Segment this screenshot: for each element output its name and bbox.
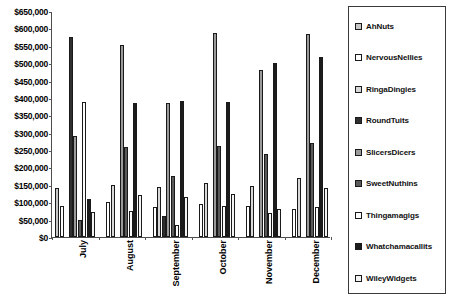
legend-item[interactable]: SweetNuthins	[355, 179, 418, 189]
bar	[87, 199, 91, 237]
legend-item[interactable]: NervousNellies	[355, 53, 422, 63]
bar-cluster	[192, 12, 239, 237]
bar-cluster	[238, 12, 285, 237]
legend-item-label: Whatchamacallits	[366, 242, 432, 251]
bar	[222, 206, 226, 237]
y-axis-tick-label: $450,000	[14, 78, 48, 86]
legend-swatch-icon	[355, 117, 362, 124]
legend-item[interactable]: SlicersDicers	[355, 147, 415, 157]
bar	[78, 220, 82, 237]
y-axis-tick-label: $150,000	[14, 182, 48, 190]
y-axis-tick-label: $100,000	[14, 199, 48, 207]
bar	[204, 183, 208, 237]
legend-item-label: NervousNellies	[366, 53, 422, 62]
bar	[319, 57, 323, 237]
legend-item[interactable]: AhNuts	[355, 21, 394, 31]
bar	[166, 103, 170, 237]
x-axis-tick-mark	[331, 237, 332, 240]
bar	[60, 206, 64, 237]
legend-item[interactable]: RoundTuits	[355, 116, 409, 126]
bar	[273, 63, 277, 237]
bar	[55, 188, 59, 237]
bar	[171, 176, 175, 237]
x-axis-tick-label: August	[125, 240, 135, 271]
bar-cluster	[285, 12, 332, 237]
bar	[277, 209, 281, 237]
legend-item-label: Thingamagigs	[366, 211, 419, 220]
legend-item[interactable]: RingaDingies	[355, 84, 416, 94]
bar	[264, 154, 268, 237]
bar-chart: $650,000$600,000$550,000$500,000$450,000…	[0, 0, 452, 301]
bar	[217, 146, 221, 237]
bar	[124, 147, 128, 237]
legend-item[interactable]: Thingamagigs	[355, 210, 419, 220]
bar	[246, 206, 250, 237]
legend-item[interactable]: Whatchamacallits	[355, 242, 432, 252]
y-axis-tick-label: $300,000	[14, 130, 48, 138]
x-axis-tick-label: December	[311, 240, 321, 284]
legend-swatch-icon	[355, 149, 362, 156]
bar	[120, 45, 124, 237]
y-axis-tick-label: $500,000	[14, 60, 48, 68]
x-axis: JulyAugustSeptemberOctoberNovemberDecemb…	[51, 240, 330, 301]
y-axis: $650,000$600,000$550,000$500,000$450,000…	[0, 0, 48, 301]
bar	[111, 185, 115, 237]
y-axis-tick-label: $0	[39, 234, 48, 242]
legend-item-label: RingaDingies	[366, 85, 416, 94]
legend-swatch-icon	[355, 23, 362, 30]
bar	[157, 187, 161, 237]
bar	[306, 34, 310, 237]
bar	[91, 212, 95, 237]
legend-item-label: WileyWidgets	[366, 274, 417, 283]
bar	[292, 209, 296, 237]
y-axis-tick-label: $200,000	[14, 164, 48, 172]
y-axis-tick-label: $250,000	[14, 147, 48, 155]
x-axis-tick-label: September	[171, 240, 181, 287]
legend-item-label: RoundTuits	[366, 116, 409, 125]
bar	[153, 207, 157, 237]
bar	[106, 202, 110, 237]
y-axis-tick-label: $600,000	[14, 25, 48, 33]
bar	[175, 225, 179, 237]
bar	[69, 37, 73, 237]
legend-swatch-icon	[355, 54, 362, 61]
bar	[231, 194, 235, 237]
bar-cluster	[145, 12, 192, 237]
y-axis-tick-label: $400,000	[14, 95, 48, 103]
bar	[226, 102, 230, 237]
bar	[73, 136, 77, 237]
bar	[82, 102, 86, 237]
y-axis-tick-label: $350,000	[14, 112, 48, 120]
bar	[138, 195, 142, 237]
x-axis-tick-label: October	[218, 240, 228, 275]
legend-swatch-icon	[355, 275, 362, 282]
bar	[259, 70, 263, 237]
bar	[199, 204, 203, 237]
bar-cluster	[99, 12, 146, 237]
y-axis-tick-label: $550,000	[14, 43, 48, 51]
bar	[129, 211, 133, 237]
legend-swatch-icon	[355, 86, 362, 93]
legend-swatch-icon	[355, 180, 362, 187]
y-axis-tick-label: $50,000	[19, 217, 48, 225]
bar	[268, 213, 272, 237]
chart-legend: AhNutsNervousNelliesRingaDingiesRoundTui…	[348, 6, 446, 294]
legend-item-label: AhNuts	[366, 22, 394, 31]
legend-item-label: SlicersDicers	[366, 148, 415, 157]
bar	[324, 188, 328, 237]
plot-area	[51, 12, 330, 238]
y-axis-tick-label: $650,000	[14, 8, 48, 16]
bar	[184, 197, 188, 237]
bar	[315, 207, 319, 237]
legend-swatch-icon	[355, 212, 362, 219]
bar	[180, 101, 184, 237]
bar	[250, 186, 254, 237]
legend-item[interactable]: WileyWidgets	[355, 273, 417, 283]
x-axis-tick-label: July	[78, 240, 88, 258]
bar	[162, 216, 166, 237]
x-axis-tick-label: November	[264, 240, 274, 284]
legend-swatch-icon	[355, 243, 362, 250]
bar-cluster	[52, 12, 99, 237]
bar	[297, 178, 301, 237]
bar	[213, 33, 217, 237]
